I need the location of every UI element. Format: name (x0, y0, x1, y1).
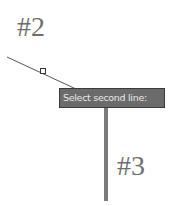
pick-box-icon (41, 69, 46, 74)
line-3-label: #3 (117, 152, 145, 180)
command-prompt-tooltip: Select second line: (59, 88, 165, 108)
line-2-label: #2 (17, 13, 45, 41)
